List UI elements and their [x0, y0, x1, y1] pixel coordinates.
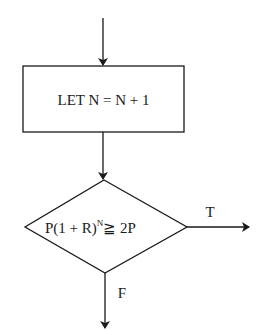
true-branch-label: T [205, 204, 214, 220]
decision-label-rest: ≧ 2P [103, 220, 136, 236]
decision-label-base: P(1 + R) [45, 220, 97, 237]
process-box-label: LET N = N + 1 [57, 92, 149, 108]
decision-label: P(1 + R)N≧ 2P [45, 218, 136, 237]
false-branch-label: F [118, 285, 126, 301]
flowchart-diagram: LET N = N + 1 P(1 + R)N≧ 2P T F [0, 0, 261, 330]
